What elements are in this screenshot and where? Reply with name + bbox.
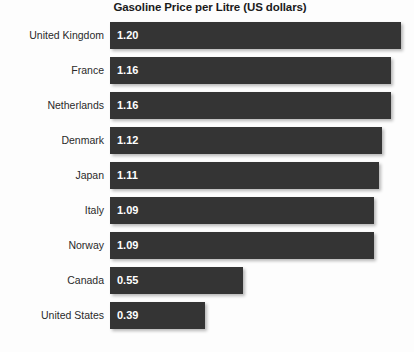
bar-category-label: Netherlands bbox=[0, 92, 104, 119]
bar: 1.16 bbox=[110, 57, 391, 84]
bar-value-label: 1.12 bbox=[117, 127, 138, 154]
bar-value-label: 1.11 bbox=[117, 162, 138, 189]
bar-value-label: 1.16 bbox=[117, 57, 138, 84]
bar-category-label: Japan bbox=[0, 162, 104, 189]
bar-category-label: United States bbox=[0, 302, 104, 329]
bar-row: France1.16 bbox=[0, 57, 414, 84]
bar-value-label: 1.09 bbox=[117, 197, 138, 224]
bar: 1.12 bbox=[110, 127, 382, 154]
bar-value-label: 0.39 bbox=[117, 302, 138, 329]
chart-plot-area: United Kingdom1.20France1.16Netherlands1… bbox=[0, 22, 414, 342]
bar-category-label: Italy bbox=[0, 197, 104, 224]
bar: 0.39 bbox=[110, 302, 205, 329]
bar-row: Denmark1.12 bbox=[0, 127, 414, 154]
bar: 1.11 bbox=[110, 162, 379, 189]
chart-title: Gasoline Price per Litre (US dollars) bbox=[0, 1, 414, 13]
bar-value-label: 1.20 bbox=[117, 22, 138, 49]
bar-value-label: 1.16 bbox=[117, 92, 138, 119]
bar-category-label: Denmark bbox=[0, 127, 104, 154]
bar-value-label: 0.55 bbox=[117, 267, 138, 294]
bar-row: Netherlands1.16 bbox=[0, 92, 414, 119]
bar-category-label: France bbox=[0, 57, 104, 84]
bar-category-label: Norway bbox=[0, 232, 104, 259]
bar-row: Norway1.09 bbox=[0, 232, 414, 259]
bar: 1.20 bbox=[110, 22, 401, 49]
bar-row: United States0.39 bbox=[0, 302, 414, 329]
bar-row: Canada0.55 bbox=[0, 267, 414, 294]
bar: 1.09 bbox=[110, 232, 374, 259]
bar: 0.55 bbox=[110, 267, 243, 294]
bar-row: Italy1.09 bbox=[0, 197, 414, 224]
bar-row: United Kingdom1.20 bbox=[0, 22, 414, 49]
bar: 1.09 bbox=[110, 197, 374, 224]
bar: 1.16 bbox=[110, 92, 391, 119]
bar-category-label: United Kingdom bbox=[0, 22, 104, 49]
bar-value-label: 1.09 bbox=[117, 232, 138, 259]
bar-category-label: Canada bbox=[0, 267, 104, 294]
gasoline-price-bar-chart: Gasoline Price per Litre (US dollars) Un… bbox=[0, 0, 414, 352]
bar-row: Japan1.11 bbox=[0, 162, 414, 189]
